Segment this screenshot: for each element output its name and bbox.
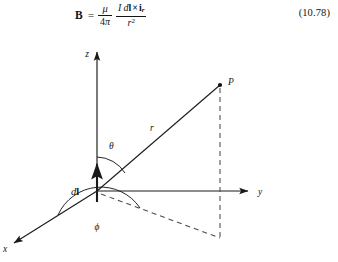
dl-bold-l: l [76,186,79,197]
fraction-numerator-mu: μ [100,3,109,14]
coordinate-diagram: z y x P r θ ϕ dl [0,38,338,262]
equation-number: (10.78) [299,7,330,18]
angle-label-theta: θ [109,141,114,151]
denominator-symbol-pi: π [105,16,110,27]
equation-biot-savart: B = μ 4π I dl×ir r2 [75,3,146,28]
segment-label-r: r [150,123,154,133]
segment-r-vector [97,85,220,191]
axis-label-x: x [2,244,8,254]
segment-label-dl: dl [71,186,79,197]
angle-label-phi: ϕ [95,222,100,232]
fraction-numerator-idl-cross-ir: I dl×ir [116,3,146,15]
axis-x-line [14,191,97,243]
point-label-P: P [227,77,234,87]
numerator-current-I: I [118,2,121,13]
point-P-marker [218,83,222,87]
fraction-denominator-4pi: 4π [98,17,112,28]
equation-lhs-B: B [75,10,83,22]
equation-fraction-idl-cross-ir-over-r2: I dl×ir r2 [116,3,146,28]
cross-product-icon: × [131,2,139,13]
equation-row: B = μ 4π I dl×ir r2 (10.78) [0,2,338,36]
fraction-denominator-r-squared: r2 [126,18,137,29]
diagram-svg: z y x P r θ ϕ dl [0,38,338,262]
equation-equals-sign: = [88,10,94,21]
figure-page: B = μ 4π I dl×ir r2 (10.78) [0,0,338,262]
axis-label-z: z [84,49,89,59]
axis-label-y: y [257,187,263,197]
denominator-exponent-2: 2 [131,17,135,25]
segment-ground-projection [101,194,220,238]
equation-fraction-mu-over-4pi: μ 4π [98,3,112,28]
numerator-unit-subscript-r: r [142,6,145,14]
